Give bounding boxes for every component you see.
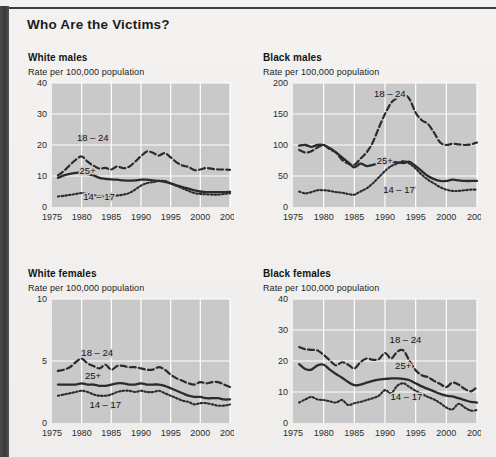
x-axis-tick-label: 1980 — [314, 428, 334, 438]
x-axis-tick-label: 2005 — [467, 428, 481, 438]
x-axis-tick-label: 1990 — [375, 428, 395, 438]
y-axis-tick-label: 150 — [273, 109, 288, 119]
chart-title-black-females: Black females — [263, 268, 481, 279]
series-annotation: 25+ — [377, 155, 394, 166]
x-axis-tick-label: 2000 — [436, 428, 456, 438]
series-annotation: 25+ — [85, 370, 102, 381]
x-axis-tick-label: 2005 — [220, 428, 234, 438]
page-top-rule — [9, 7, 496, 9]
x-axis-tick-label: 2005 — [220, 212, 234, 222]
x-axis-tick-label: 1990 — [375, 212, 395, 222]
chart-svg-black-females: 010203040197519801985199019952000200518 … — [263, 295, 481, 443]
y-axis-tick-label: 10 — [37, 171, 47, 181]
chart-svg-white-males: 010203040197519801985199019952000200518 … — [28, 79, 234, 227]
y-axis-tick-label: 10 — [278, 387, 288, 397]
panel-black-males: Black males Rate per 100,000 population … — [263, 52, 481, 227]
series-annotation: 18 – 24 — [374, 88, 406, 99]
x-axis-tick-label: 1975 — [42, 212, 62, 222]
series-annotation: 14 – 17 — [391, 391, 423, 402]
series-annotation: 18 – 24 — [77, 132, 109, 143]
page-title: Who Are the Victims? — [27, 17, 170, 32]
series-annotation: 25+ — [395, 360, 412, 371]
series-annotation: 25+ — [80, 165, 97, 176]
series-annotation: 14 – 17 — [89, 399, 121, 410]
chart-white-females[interactable]: 0510197519801985199019952000200518 – 241… — [28, 295, 234, 443]
x-axis-tick-label: 1975 — [283, 428, 303, 438]
chart-title-white-females: White females — [28, 268, 234, 279]
y-axis-tick-label: 40 — [37, 79, 47, 88]
x-axis-tick-label: 1980 — [72, 428, 92, 438]
series-annotation: 14 – 17 — [383, 184, 415, 195]
y-axis-tick-label: 10 — [37, 295, 47, 304]
y-axis-tick-label: 200 — [273, 79, 288, 88]
y-axis-tick-label: 0 — [42, 418, 47, 428]
x-axis-tick-label: 1995 — [406, 428, 426, 438]
x-axis-tick-label: 1975 — [42, 428, 62, 438]
y-axis-tick-label: 5 — [42, 356, 47, 366]
x-axis-tick-label: 1975 — [283, 212, 303, 222]
chart-subtitle-black-males: Rate per 100,000 population — [263, 67, 481, 77]
panel-white-males: White males Rate per 100,000 population … — [28, 52, 234, 227]
x-axis-tick-label: 1995 — [406, 212, 426, 222]
page-left-gutter-bar — [0, 6, 9, 457]
y-axis-tick-label: 20 — [37, 140, 47, 150]
chart-black-males[interactable]: 0501001502001975198019851990199520002005… — [263, 79, 481, 227]
y-axis-tick-label: 0 — [42, 202, 47, 212]
x-axis-tick-label: 1985 — [344, 212, 364, 222]
y-axis-tick-label: 40 — [278, 295, 288, 304]
x-axis-tick-label: 1990 — [131, 428, 151, 438]
y-axis-tick-label: 30 — [278, 325, 288, 335]
y-axis-tick-label: 0 — [283, 418, 288, 428]
x-axis-tick-label: 1985 — [344, 428, 364, 438]
x-axis-tick-label: 2005 — [467, 212, 481, 222]
x-axis-tick-label: 1990 — [131, 212, 151, 222]
series-annotation: 18 – 24 — [81, 347, 113, 358]
x-axis-tick-label: 1985 — [101, 212, 121, 222]
chart-title-white-males: White males — [28, 52, 234, 63]
chart-svg-white-females: 0510197519801985199019952000200518 – 241… — [28, 295, 234, 443]
chart-subtitle-white-females: Rate per 100,000 population — [28, 283, 234, 293]
x-axis-tick-label: 1995 — [161, 212, 181, 222]
y-axis-tick-label: 20 — [278, 356, 288, 366]
chart-title-black-males: Black males — [263, 52, 481, 63]
x-axis-tick-label: 1995 — [161, 428, 181, 438]
x-axis-tick-label: 1980 — [72, 212, 92, 222]
x-axis-tick-label: 2000 — [436, 212, 456, 222]
y-axis-tick-label: 0 — [283, 202, 288, 212]
chart-subtitle-black-females: Rate per 100,000 population — [263, 283, 481, 293]
chart-white-males[interactable]: 010203040197519801985199019952000200518 … — [28, 79, 234, 227]
y-axis-tick-label: 50 — [278, 171, 288, 181]
series-annotation: 14 – 17 — [83, 191, 115, 202]
panel-black-females: Black females Rate per 100,000 populatio… — [263, 268, 481, 443]
series-annotation: 18 – 24 — [390, 334, 422, 345]
x-axis-tick-label: 1985 — [101, 428, 121, 438]
y-axis-tick-label: 100 — [273, 140, 288, 150]
chart-subtitle-white-males: Rate per 100,000 population — [28, 67, 234, 77]
x-axis-tick-label: 1980 — [314, 212, 334, 222]
x-axis-tick-label: 2000 — [190, 212, 210, 222]
chart-svg-black-males: 0501001502001975198019851990199520002005… — [263, 79, 481, 227]
chart-black-females[interactable]: 010203040197519801985199019952000200518 … — [263, 295, 481, 443]
x-axis-tick-label: 2000 — [190, 428, 210, 438]
panel-white-females: White females Rate per 100,000 populatio… — [28, 268, 234, 443]
y-axis-tick-label: 30 — [37, 109, 47, 119]
